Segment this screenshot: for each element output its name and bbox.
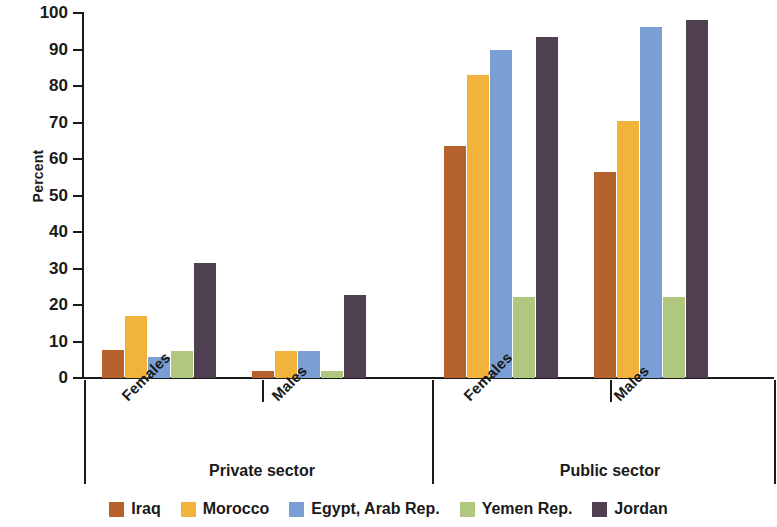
bar (252, 371, 274, 378)
y-axis-tick-mark (73, 49, 82, 51)
y-axis-tick-mark (73, 195, 82, 197)
y-axis-tick-label: 20 (6, 296, 68, 313)
legend-label: Jordan (614, 500, 667, 518)
legend-label: Morocco (203, 500, 270, 518)
axis-end-tick (774, 380, 776, 484)
y-axis-title: Percent (30, 116, 46, 236)
y-axis-tick-label: 60 (6, 150, 68, 167)
bar (490, 50, 512, 378)
legend-label: Iraq (131, 500, 160, 518)
y-axis-tick-label: 40 (6, 223, 68, 240)
y-axis-tick-label: 100 (6, 4, 68, 21)
y-axis-tick-mark (73, 158, 82, 160)
bar (321, 371, 343, 378)
x-axis-sector-label: Private sector (162, 462, 362, 480)
y-axis-tick-mark (73, 122, 82, 124)
bar (617, 121, 639, 378)
bar (686, 20, 708, 378)
y-axis-tick-mark (73, 12, 82, 14)
legend-item: Iraq (109, 500, 160, 518)
bar (594, 172, 616, 378)
bar-group (594, 13, 709, 378)
y-axis-tick-label: 10 (6, 333, 68, 350)
bar (640, 27, 662, 378)
sector-separator (432, 380, 434, 484)
bar (513, 297, 535, 378)
legend-item: Egypt, Arab Rep. (289, 500, 439, 518)
legend-swatch-icon (460, 502, 475, 517)
bar-chart: Percent 1009080706050403020100 FemalesMa… (0, 0, 777, 527)
y-axis-tick-label: 70 (6, 114, 68, 131)
bar (467, 75, 489, 378)
legend-item: Morocco (181, 500, 270, 518)
legend-label: Yemen Rep. (482, 500, 573, 518)
legend-item: Jordan (592, 500, 667, 518)
y-axis-tick-label: 0 (6, 369, 68, 386)
bar-group (252, 13, 367, 378)
legend-swatch-icon (109, 502, 124, 517)
bar (171, 351, 193, 378)
y-axis-tick-mark (73, 377, 82, 379)
y-axis-tick-mark (73, 268, 82, 270)
legend: IraqMoroccoEgypt, Arab Rep.Yemen Rep.Jor… (0, 500, 777, 518)
x-axis-sector-label: Public sector (510, 462, 710, 480)
y-axis-tick-mark (73, 341, 82, 343)
bar-group (444, 13, 559, 378)
y-axis-tick-label: 90 (6, 41, 68, 58)
axis-end-tick (84, 380, 86, 484)
y-axis-tick-mark (73, 231, 82, 233)
legend-swatch-icon (592, 502, 607, 517)
subgroup-tick (262, 380, 264, 402)
y-axis-tick-label: 80 (6, 77, 68, 94)
bar (344, 295, 366, 378)
bar-group (102, 13, 217, 378)
bar (194, 263, 216, 378)
legend-label: Egypt, Arab Rep. (311, 500, 439, 518)
y-axis-tick-label: 50 (6, 187, 68, 204)
y-axis-tick-mark (73, 304, 82, 306)
y-axis-tick-mark (73, 85, 82, 87)
y-axis-tick-label: 30 (6, 260, 68, 277)
bar (102, 350, 124, 378)
legend-item: Yemen Rep. (460, 500, 573, 518)
bar (663, 297, 685, 378)
legend-swatch-icon (289, 502, 304, 517)
bar (536, 37, 558, 378)
bar (444, 146, 466, 378)
legend-swatch-icon (181, 502, 196, 517)
plot-area (84, 13, 774, 378)
